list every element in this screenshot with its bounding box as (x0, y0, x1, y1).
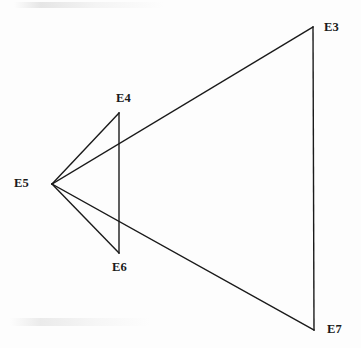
vertex-label-e5: E5 (14, 177, 29, 190)
vertex-label-e3: E3 (324, 21, 339, 34)
edge-e5-e7 (52, 184, 314, 330)
diagram-canvas: E3 E4 E5 E6 E7 (0, 0, 361, 348)
edge-e5-e6 (52, 184, 119, 253)
vertex-label-e7: E7 (327, 323, 342, 336)
edge-e3-e7 (313, 27, 314, 330)
edge-e5-e3 (52, 27, 313, 184)
edge-e5-e4 (52, 113, 119, 184)
edges-group (52, 27, 314, 330)
figure-line-drawing (0, 0, 361, 348)
vertex-label-e6: E6 (112, 261, 127, 274)
vertex-label-e4: E4 (116, 92, 131, 105)
